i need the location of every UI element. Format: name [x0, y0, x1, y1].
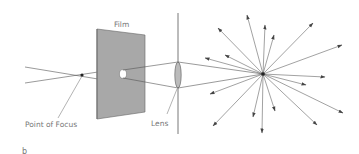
lens-star-rays [178, 62, 263, 88]
lens-leader [167, 89, 177, 114]
incoming-rays [25, 67, 98, 83]
lens-shape [175, 62, 181, 88]
diagram-canvas: Film Point of Focus Lens b [0, 0, 359, 154]
panel-letter: b [22, 147, 27, 154]
film-aperture [119, 70, 126, 79]
radiating-arrows [205, 15, 343, 133]
lens-label: Lens [151, 119, 168, 128]
point-of-focus-label: Point of Focus [25, 120, 77, 129]
star-center [261, 72, 265, 76]
point-of-focus-leader [58, 76, 82, 118]
film-label: Film [114, 20, 129, 29]
